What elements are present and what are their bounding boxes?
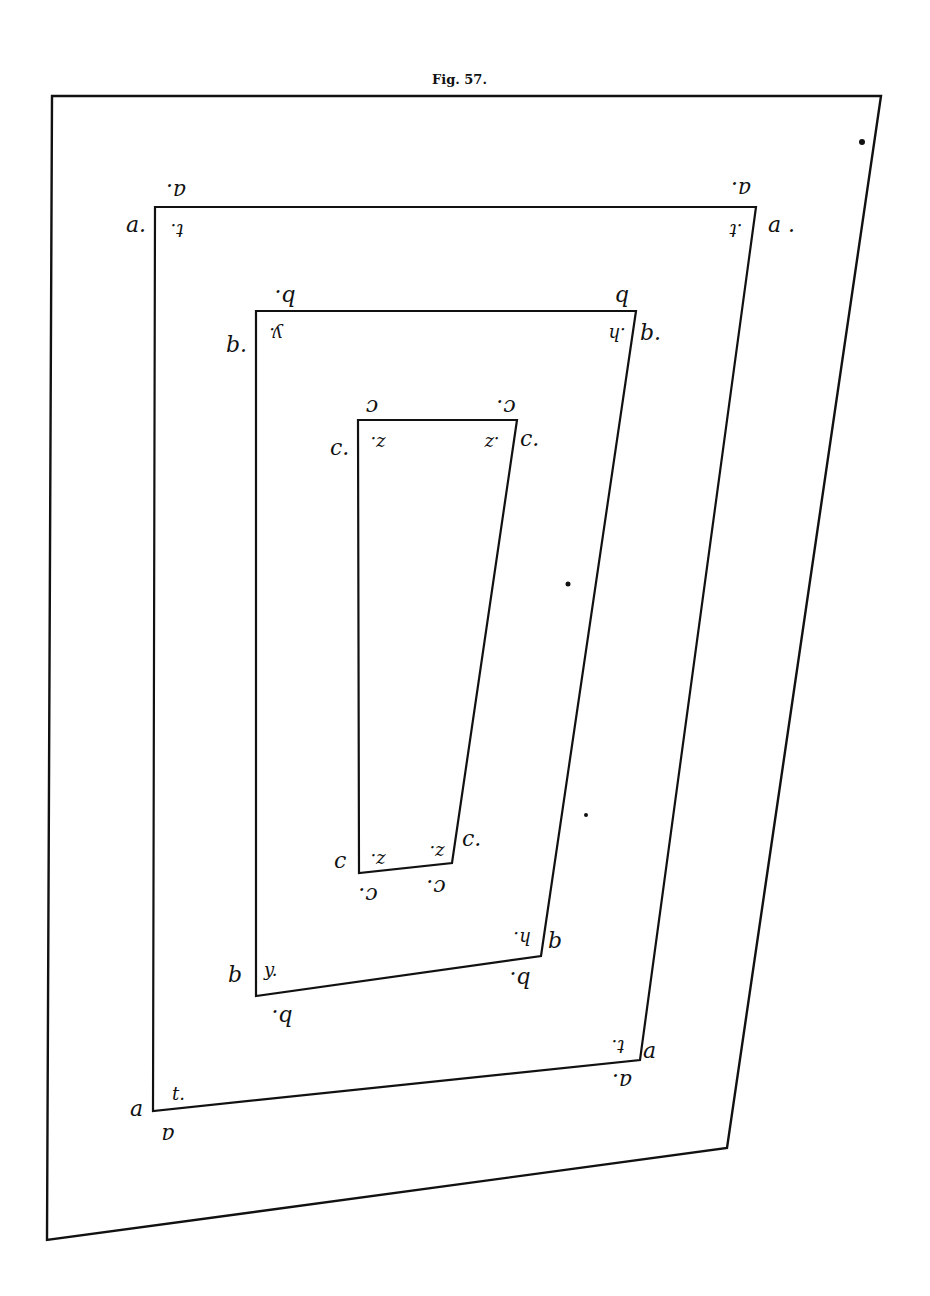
label-c-bottom-right-side: c. [462, 826, 481, 851]
label-c-top-right-above: c. [496, 395, 515, 420]
label-a-bottom-left-inner: t. [172, 1083, 185, 1104]
label-c-top-right-side: c. [520, 426, 539, 451]
label-b-bottom-left-inner: y. [263, 959, 278, 980]
label-c-bottom-right-inner: z. [429, 842, 445, 863]
label-a-bottom-left-side: a [130, 1096, 143, 1121]
label-b-top-left-side: b. [226, 332, 247, 357]
stray-dot [859, 139, 865, 145]
label-c-top-left-side: c. [330, 435, 349, 460]
label-b-bottom-right-inner: h. [513, 928, 530, 949]
label-b-top-left-above: b. [274, 285, 295, 310]
label-c-top-right-inner: .z [484, 433, 500, 454]
stray-dot [566, 582, 571, 587]
rectangle-c [358, 420, 517, 873]
label-c-bottom-left-below: c. [358, 883, 377, 908]
figure-57-diagram: Fig. 57. a. a. t. a. a . .t a t. a. a t.… [0, 0, 930, 1296]
label-a-bottom-right-side: a [643, 1038, 656, 1063]
label-b-top-right-inner: .h [608, 324, 625, 345]
label-b-top-left-inner: y. [269, 324, 284, 345]
label-b-bottom-left-side: b [228, 962, 242, 987]
label-a-top-right-inner: .t [729, 220, 743, 241]
label-c-top-left-above: c [366, 395, 378, 420]
label-c-bottom-left-side: c [334, 848, 346, 873]
label-c-bottom-right-below: c. [426, 875, 445, 900]
label-a-top-left-side: a. [126, 212, 146, 237]
label-a-top-right-above: a. [731, 177, 751, 202]
label-a-top-left-inner: t. [171, 220, 184, 241]
rectangle-c-labels: c c. z. c. c. .z c. z. c. c z. c. [330, 395, 539, 908]
stray-dot [584, 813, 588, 817]
label-c-bottom-left-inner: z. [370, 850, 386, 871]
label-b-bottom-right-side: b [548, 928, 562, 953]
rectangle-b-labels: b. b. y. b b. .h b h. b. b y. b. [226, 285, 661, 1030]
label-b-bottom-left-below: b. [271, 1005, 292, 1030]
outer-frame [47, 96, 881, 1240]
label-a-bottom-right-below: a. [612, 1069, 632, 1094]
label-b-top-right-above: b [615, 285, 629, 310]
label-b-bottom-right-below: b. [509, 967, 530, 992]
label-a-top-right-side: a . [768, 212, 795, 237]
label-a-top-left-above: a. [166, 179, 186, 204]
label-a-bottom-left-below: a [161, 1123, 174, 1148]
label-c-top-left-inner: z. [370, 433, 386, 454]
figure-caption: Fig. 57. [432, 72, 487, 87]
label-b-top-right-side: b. [640, 320, 661, 345]
label-a-bottom-right-inner: t. [612, 1036, 625, 1057]
